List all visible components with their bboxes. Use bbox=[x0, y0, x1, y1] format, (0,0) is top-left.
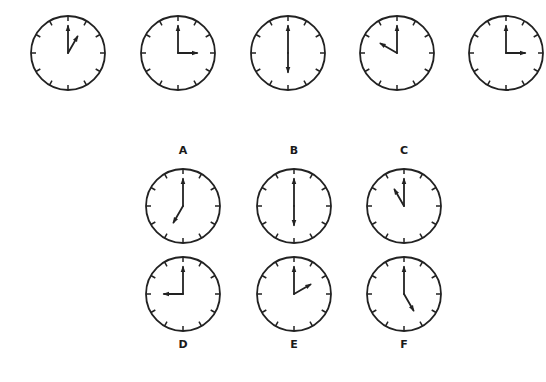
option-clock-d bbox=[143, 254, 223, 334]
option-clock-f bbox=[364, 254, 444, 334]
clock-icon bbox=[138, 13, 218, 93]
option-label-a: A bbox=[168, 144, 198, 157]
clock-icon bbox=[143, 166, 223, 246]
sequence-clock-3 bbox=[248, 13, 328, 93]
clock-icon bbox=[28, 13, 108, 93]
sequence-clock-2 bbox=[138, 13, 218, 93]
sequence-clock-5 bbox=[466, 13, 546, 93]
clock-icon bbox=[357, 13, 437, 93]
option-label-d: D bbox=[168, 338, 198, 351]
option-label-c: C bbox=[389, 144, 419, 157]
clock-icon bbox=[364, 166, 444, 246]
option-clock-a bbox=[143, 166, 223, 246]
option-clock-e bbox=[254, 254, 334, 334]
option-clock-c bbox=[364, 166, 444, 246]
clock-icon bbox=[364, 254, 444, 334]
clock-icon bbox=[466, 13, 546, 93]
clock-icon bbox=[248, 13, 328, 93]
clock-icon bbox=[254, 166, 334, 246]
sequence-clock-1 bbox=[28, 13, 108, 93]
option-label-f: F bbox=[389, 338, 419, 351]
option-label-b: B bbox=[279, 144, 309, 157]
option-label-e: E bbox=[279, 338, 309, 351]
clock-icon bbox=[254, 254, 334, 334]
option-clock-b bbox=[254, 166, 334, 246]
sequence-clock-4 bbox=[357, 13, 437, 93]
clock-icon bbox=[143, 254, 223, 334]
